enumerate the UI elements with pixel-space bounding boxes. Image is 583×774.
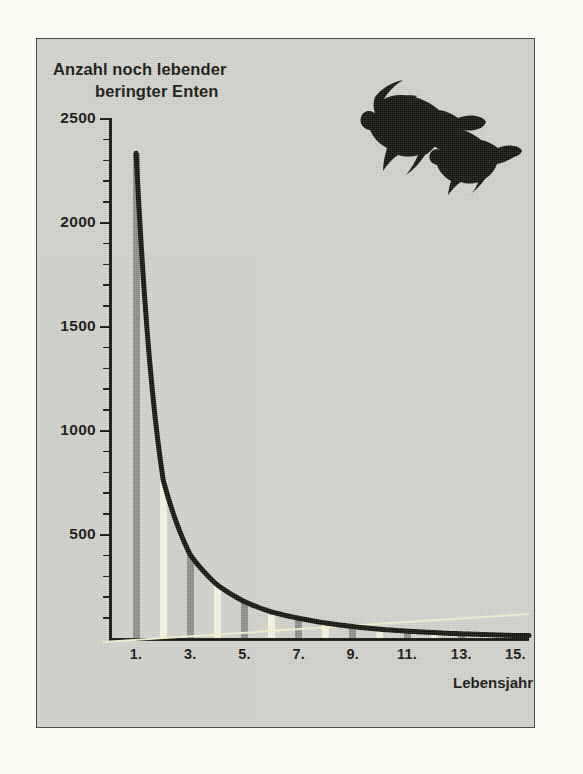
y-tick-label-1500: 1500 (60, 317, 96, 335)
x-axis-title: Lebensjahr (453, 674, 533, 691)
x-tick-label-5: 5. (238, 646, 251, 662)
y-tick-1000 (100, 430, 109, 432)
chart-title-text-line-2: beringter Enten (53, 81, 373, 103)
y-tick-label-2000: 2000 (60, 213, 96, 231)
curve-layer (109, 118, 529, 642)
y-tick-label-2500: 2500 (60, 109, 96, 127)
x-tick-label-7: 7. (292, 646, 305, 662)
y-tick-2500 (100, 118, 109, 120)
guide-line (103, 614, 529, 642)
x-tick-label-11: 11. (397, 646, 417, 662)
x-tick-label-13: 13. (451, 646, 472, 662)
y-tick-1500 (100, 326, 109, 328)
y-tick-label-500: 500 (69, 525, 96, 543)
x-tick-label-9: 9. (347, 646, 360, 662)
x-tick-label-3: 3. (184, 646, 197, 662)
x-tick-label-1: 1. (130, 646, 143, 662)
chart-title: Anzahl noch lebender beringter Enten Anz… (53, 59, 373, 103)
x-tick-label-15: 15. (505, 646, 526, 662)
y-tick-label-1000: 1000 (60, 421, 96, 439)
survival-curve (136, 153, 529, 635)
y-tick-500 (100, 534, 109, 536)
chart-title-text-line-1: Anzahl noch lebender (53, 60, 226, 78)
chart-figure: Anzahl noch lebender beringter Enten Anz… (36, 38, 535, 728)
page-background: Anzahl noch lebender beringter Enten Anz… (0, 0, 583, 774)
plot-area: 2500 2000 1500 1000 500 1.3.5.7.9.11.13.… (109, 118, 529, 638)
y-tick-2000 (100, 222, 109, 224)
